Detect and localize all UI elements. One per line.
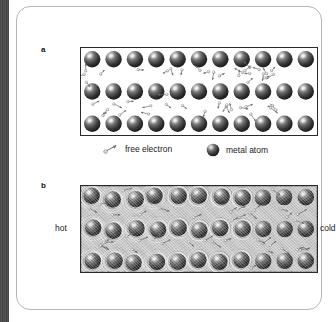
panel-a-lattice — [80, 47, 318, 136]
metal-atom — [191, 116, 207, 132]
legend-item-metal-atom: metal atom — [206, 143, 268, 157]
free-electron — [269, 241, 276, 247]
metal-atom — [212, 220, 228, 236]
free-electron-icon — [103, 143, 119, 155]
metal-atom — [298, 221, 314, 237]
metal-atom — [148, 83, 164, 99]
free-electron — [139, 211, 147, 216]
metal-atom — [277, 221, 293, 237]
free-electron — [229, 207, 236, 213]
metal-atom — [213, 188, 229, 204]
metal-atom — [190, 252, 206, 268]
metal-atom — [170, 254, 186, 270]
metal-atom — [255, 221, 271, 237]
metal-atom — [255, 189, 271, 205]
free-electron — [169, 67, 173, 75]
legend-label-free-electron: free electron — [125, 144, 172, 154]
free-electron — [266, 249, 273, 253]
panel-a-svg — [81, 48, 317, 135]
free-electron — [296, 209, 307, 215]
metal-atom — [212, 51, 228, 67]
free-electron — [211, 240, 221, 247]
free-electron — [249, 113, 255, 121]
panel-b-svg — [81, 186, 317, 272]
metal-atom — [212, 116, 228, 132]
legend-label-metal-atom: metal atom — [226, 145, 268, 155]
metal-atom — [276, 116, 292, 132]
metal-atom — [105, 83, 121, 99]
metal-atom — [234, 83, 250, 99]
free-electron — [192, 214, 201, 219]
free-electron — [203, 70, 210, 73]
metal-atom — [84, 116, 100, 132]
metal-atom — [150, 221, 166, 237]
free-electron — [91, 101, 99, 106]
metal-atom — [84, 83, 100, 99]
metal-atom — [125, 255, 141, 271]
metal-atom — [276, 189, 292, 205]
free-electron — [286, 213, 293, 219]
metal-atom — [127, 83, 143, 99]
metal-atom — [170, 219, 186, 235]
figure-legend: free electron metal atom — [80, 143, 318, 161]
metal-atom — [298, 253, 314, 269]
free-electron — [187, 241, 194, 247]
metal-atom — [146, 188, 162, 204]
metal-atom — [106, 253, 122, 269]
metal-atom — [84, 253, 100, 269]
metal-atom — [127, 51, 143, 67]
metal-atom — [255, 253, 271, 269]
metal-atom — [148, 51, 164, 67]
metal-atom — [191, 83, 207, 99]
metal-atom — [105, 116, 121, 132]
free-electron — [229, 103, 233, 111]
metal-atom — [276, 253, 292, 269]
metal-atom — [148, 116, 164, 132]
metal-atom — [105, 223, 121, 239]
metal-atom — [83, 188, 99, 204]
free-electron — [180, 69, 183, 76]
metal-atom — [211, 254, 227, 270]
free-electron — [99, 70, 104, 75]
metal-atom — [169, 116, 185, 132]
metal-atom — [255, 51, 271, 67]
metal-atom — [105, 191, 121, 207]
free-electron — [181, 104, 187, 109]
page-gutter-stripe — [0, 0, 9, 322]
metal-atom — [298, 116, 314, 132]
metal-atom — [234, 221, 250, 237]
free-electron — [137, 68, 144, 71]
free-electron — [224, 238, 232, 242]
free-electron — [163, 69, 169, 73]
metal-atom — [105, 51, 121, 67]
free-electron — [159, 207, 170, 212]
free-electron — [217, 102, 220, 109]
free-electron — [218, 73, 225, 77]
metal-atom — [128, 191, 144, 207]
free-electron — [253, 67, 261, 71]
metal-atom — [170, 188, 186, 204]
panel-b-hot-label: hot — [55, 223, 67, 233]
free-electron — [247, 78, 253, 84]
metal-atom — [233, 252, 249, 268]
free-electron — [212, 71, 215, 80]
free-electron — [249, 212, 257, 219]
free-electron — [126, 100, 133, 103]
free-electron — [141, 112, 150, 116]
metal-atom — [276, 51, 292, 67]
metal-atom — [149, 254, 165, 270]
free-electron — [203, 110, 206, 117]
figure-card: a — [16, 6, 322, 310]
free-electron — [250, 265, 257, 270]
panel-a-letter: a — [41, 45, 45, 54]
metal-atom — [298, 189, 314, 205]
free-electron — [262, 237, 271, 244]
free-electron — [142, 104, 152, 108]
metal-atom — [298, 83, 314, 99]
legend-item-free-electron: free electron — [103, 143, 172, 155]
free-electron — [256, 239, 265, 244]
free-electron — [99, 244, 109, 249]
free-electron — [253, 205, 260, 211]
metal-atom — [191, 222, 207, 238]
metal-atom — [84, 51, 100, 67]
